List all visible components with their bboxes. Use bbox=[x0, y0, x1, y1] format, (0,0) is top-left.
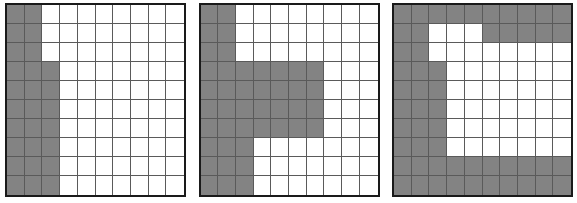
empty-cell bbox=[536, 100, 554, 119]
shaded-cell bbox=[25, 43, 43, 62]
empty-cell bbox=[96, 5, 114, 24]
shaded-cell bbox=[429, 157, 447, 176]
shaded-cell bbox=[465, 157, 483, 176]
empty-cell bbox=[342, 24, 360, 43]
empty-cell bbox=[131, 24, 149, 43]
empty-cell bbox=[131, 157, 149, 176]
empty-cell bbox=[342, 157, 360, 176]
empty-cell bbox=[360, 100, 378, 119]
empty-cell bbox=[447, 43, 465, 62]
shaded-cell bbox=[307, 81, 325, 100]
shaded-cell bbox=[25, 100, 43, 119]
empty-cell bbox=[360, 5, 378, 24]
empty-cell bbox=[324, 81, 342, 100]
shaded-cell bbox=[483, 24, 501, 43]
shaded-cell bbox=[394, 62, 412, 81]
shaded-cell bbox=[42, 157, 60, 176]
empty-cell bbox=[518, 43, 536, 62]
empty-cell bbox=[166, 176, 184, 195]
shaded-cell bbox=[429, 176, 447, 195]
shaded-cell bbox=[25, 157, 43, 176]
empty-cell bbox=[307, 157, 325, 176]
empty-cell bbox=[166, 43, 184, 62]
shaded-cell bbox=[518, 24, 536, 43]
empty-cell bbox=[149, 176, 167, 195]
empty-cell bbox=[60, 100, 78, 119]
empty-cell bbox=[324, 100, 342, 119]
shaded-cell bbox=[553, 5, 571, 24]
shaded-cell bbox=[25, 119, 43, 138]
empty-cell bbox=[447, 100, 465, 119]
empty-cell bbox=[324, 5, 342, 24]
empty-cell bbox=[78, 157, 96, 176]
grid-panel-3 bbox=[392, 3, 573, 197]
empty-cell bbox=[500, 119, 518, 138]
empty-cell bbox=[500, 62, 518, 81]
empty-cell bbox=[149, 43, 167, 62]
empty-cell bbox=[254, 157, 272, 176]
shaded-cell bbox=[553, 157, 571, 176]
empty-cell bbox=[465, 100, 483, 119]
empty-cell bbox=[307, 176, 325, 195]
empty-cell bbox=[536, 43, 554, 62]
empty-cell bbox=[254, 138, 272, 157]
shaded-cell bbox=[447, 5, 465, 24]
shaded-cell bbox=[412, 5, 430, 24]
empty-cell bbox=[483, 138, 501, 157]
shaded-cell bbox=[289, 81, 307, 100]
empty-cell bbox=[60, 176, 78, 195]
empty-cell bbox=[483, 43, 501, 62]
empty-cell bbox=[166, 100, 184, 119]
empty-cell bbox=[166, 138, 184, 157]
shaded-cell bbox=[201, 100, 219, 119]
empty-cell bbox=[60, 81, 78, 100]
shaded-cell bbox=[42, 176, 60, 195]
empty-cell bbox=[307, 24, 325, 43]
empty-cell bbox=[465, 62, 483, 81]
empty-cell bbox=[236, 24, 254, 43]
empty-cell bbox=[307, 138, 325, 157]
empty-cell bbox=[96, 176, 114, 195]
empty-cell bbox=[360, 81, 378, 100]
shaded-cell bbox=[201, 5, 219, 24]
empty-cell bbox=[324, 138, 342, 157]
empty-cell bbox=[342, 81, 360, 100]
empty-cell bbox=[166, 157, 184, 176]
empty-cell bbox=[78, 119, 96, 138]
empty-cell bbox=[254, 5, 272, 24]
shaded-cell bbox=[536, 24, 554, 43]
empty-cell bbox=[553, 100, 571, 119]
shaded-cell bbox=[201, 119, 219, 138]
empty-cell bbox=[360, 157, 378, 176]
shaded-cell bbox=[412, 138, 430, 157]
shaded-cell bbox=[236, 119, 254, 138]
empty-cell bbox=[553, 62, 571, 81]
shaded-cell bbox=[289, 100, 307, 119]
empty-cell bbox=[78, 138, 96, 157]
shaded-cell bbox=[218, 5, 236, 24]
empty-cell bbox=[307, 5, 325, 24]
empty-cell bbox=[131, 119, 149, 138]
shaded-cell bbox=[465, 176, 483, 195]
empty-cell bbox=[271, 43, 289, 62]
shaded-cell bbox=[412, 43, 430, 62]
empty-cell bbox=[131, 176, 149, 195]
shaded-cell bbox=[236, 62, 254, 81]
empty-cell bbox=[113, 62, 131, 81]
shaded-cell bbox=[218, 138, 236, 157]
empty-cell bbox=[166, 24, 184, 43]
shaded-cell bbox=[412, 100, 430, 119]
shaded-cell bbox=[394, 157, 412, 176]
empty-cell bbox=[131, 43, 149, 62]
shaded-cell bbox=[218, 43, 236, 62]
empty-cell bbox=[536, 119, 554, 138]
empty-cell bbox=[483, 100, 501, 119]
shaded-cell bbox=[412, 24, 430, 43]
shaded-cell bbox=[201, 43, 219, 62]
empty-cell bbox=[324, 43, 342, 62]
empty-cell bbox=[131, 5, 149, 24]
empty-cell bbox=[324, 62, 342, 81]
empty-cell bbox=[307, 43, 325, 62]
empty-cell bbox=[447, 138, 465, 157]
empty-cell bbox=[78, 81, 96, 100]
